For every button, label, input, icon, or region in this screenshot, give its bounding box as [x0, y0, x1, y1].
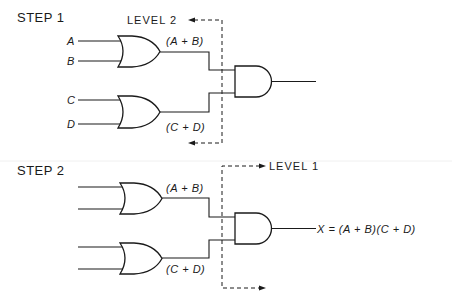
final-output-expression: X = (A + B)(C + D): [316, 223, 416, 235]
or-gate-1: [118, 36, 160, 67]
level2-label: LEVEL 2: [127, 14, 177, 26]
level2-arrow-bottom-icon: [188, 141, 195, 146]
step2-group: STEP 2 (A + B) (C + D) X = (A + B)(C + D…: [17, 160, 416, 291]
logic-diagram: STEP 1 A B C D (A + B) (C + D) LEVEL 2 S…: [0, 0, 452, 299]
wire-or1-to-and: [160, 52, 235, 70]
and-gate-1: [235, 66, 272, 97]
level1-arrow-bottom-icon: [259, 286, 266, 291]
or2-output-label: (C + D): [166, 121, 205, 133]
or-gate-3: [120, 183, 162, 214]
wire-or4-to-and: [162, 240, 235, 258]
level1-arrow-top-icon: [259, 164, 266, 169]
or3-output-label: (A + B): [166, 182, 204, 194]
wire-or3-to-and: [162, 198, 235, 217]
level1-label: LEVEL 1: [269, 160, 319, 172]
or1-output-label: (A + B): [166, 35, 204, 47]
and-gate-2: [235, 213, 272, 244]
or-gate-4: [120, 243, 162, 274]
step1-group: STEP 1 A B C D (A + B) (C + D) LEVEL 2: [17, 10, 316, 146]
step1-title: STEP 1: [17, 10, 65, 25]
input-label-b: B: [67, 55, 74, 67]
input-label-d: D: [67, 118, 75, 130]
level2-arrow-top-icon: [188, 18, 195, 23]
or4-output-label: (C + D): [166, 263, 205, 275]
step2-title: STEP 2: [17, 163, 65, 178]
wire-or2-to-and: [160, 93, 235, 112]
input-label-a: A: [66, 35, 74, 47]
input-label-c: C: [67, 94, 75, 106]
or-gate-2: [118, 96, 160, 128]
